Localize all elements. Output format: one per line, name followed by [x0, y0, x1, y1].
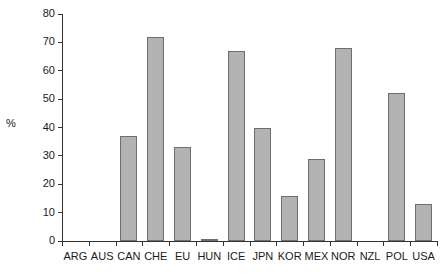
x-axis-tick-label: NZL	[360, 250, 381, 262]
x-axis-tick-label: ARG	[63, 250, 87, 262]
bar	[174, 147, 191, 241]
y-axis-ticks: 01020304050607080	[0, 0, 62, 274]
x-axis-tick-mark	[116, 241, 117, 246]
x-axis-tick-mark	[250, 241, 251, 246]
x-axis-tick-mark	[303, 241, 304, 246]
x-axis-tick-mark	[330, 241, 331, 246]
y-axis-tick-label: 0	[49, 235, 55, 246]
x-axis-tick-label: USA	[412, 250, 435, 262]
bar	[120, 136, 137, 241]
x-axis-tick-label: JPN	[253, 250, 274, 262]
x-axis-tick-mark	[437, 241, 438, 246]
plot-area	[62, 14, 437, 241]
y-axis-tick-label: 30	[43, 150, 55, 161]
bar	[201, 239, 218, 241]
x-axis-tick-mark	[169, 241, 170, 246]
bar	[281, 196, 298, 241]
x-axis-tick-mark	[223, 241, 224, 246]
bar	[308, 159, 325, 241]
y-axis-tick-label: 40	[43, 122, 55, 133]
bar-chart: % 01020304050607080 ARGAUSCANCHEEUHUNICE…	[0, 0, 444, 274]
x-axis-tick-mark	[62, 241, 63, 246]
x-axis-tick-label: AUS	[91, 250, 114, 262]
y-axis-tick-label: 50	[43, 93, 55, 104]
x-axis-tick-mark	[142, 241, 143, 246]
y-axis-tick-label: 20	[43, 178, 55, 189]
x-axis-tick-mark	[196, 241, 197, 246]
bar	[147, 37, 164, 241]
bar	[254, 128, 271, 242]
x-axis-tick-mark	[357, 241, 358, 246]
x-axis-tick-mark	[383, 241, 384, 246]
x-axis-tick-label: KOR	[278, 250, 302, 262]
x-axis-tick-label: MEX	[305, 250, 329, 262]
x-axis-tick-label: CHE	[144, 250, 167, 262]
x-axis-tick-label: EU	[175, 250, 190, 262]
y-axis-tick-label: 10	[43, 207, 55, 218]
y-axis-tick-label: 60	[43, 65, 55, 76]
x-axis-tick-label: CAN	[117, 250, 140, 262]
bar	[415, 204, 432, 241]
bar	[335, 48, 352, 241]
x-axis-tick-mark	[276, 241, 277, 246]
bar	[228, 51, 245, 241]
y-axis-tick-label: 70	[43, 36, 55, 47]
x-axis-tick-mark	[410, 241, 411, 246]
x-axis-tick-label: ICE	[227, 250, 245, 262]
x-axis-tick-label: HUN	[197, 250, 221, 262]
x-axis-tick-label: POL	[386, 250, 408, 262]
x-axis-tick-label: NOR	[331, 250, 355, 262]
y-axis-tick-label: 80	[43, 8, 55, 19]
bar	[388, 93, 405, 241]
x-axis-tick-mark	[89, 241, 90, 246]
